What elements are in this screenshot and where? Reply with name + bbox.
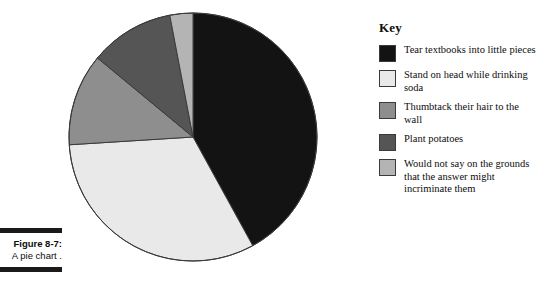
legend-swatch-icon <box>379 70 396 87</box>
legend-item: Would not say on the grounds that the an… <box>379 158 539 196</box>
legend: Key Tear textbooks into little piecesSta… <box>379 20 539 203</box>
legend-item: Stand on head while drinking soda <box>379 69 539 94</box>
figure-number-label: Figure 8-7: <box>0 238 62 250</box>
pie-chart-svg <box>66 10 326 270</box>
legend-item-list: Tear textbooks into little piecesStand o… <box>379 44 539 196</box>
legend-item-label: Thumbtack their hair to the wall <box>404 101 536 126</box>
legend-item-label: Would not say on the grounds that the an… <box>404 158 536 196</box>
figure-caption-text: A pie chart . <box>0 250 62 262</box>
legend-item-label: Plant potatoes <box>404 133 463 146</box>
legend-item: Thumbtack their hair to the wall <box>379 101 539 126</box>
legend-item-label: Tear textbooks into little pieces <box>404 44 536 57</box>
caption-rule-bottom <box>0 267 62 272</box>
legend-title: Key <box>379 20 539 35</box>
legend-item-label: Stand on head while drinking soda <box>404 69 536 94</box>
legend-item: Plant potatoes <box>379 133 539 151</box>
legend-swatch-icon <box>379 134 396 151</box>
figure-caption-block: Figure 8-7: A pie chart . <box>0 228 62 272</box>
caption-rule-top <box>0 228 62 233</box>
legend-swatch-icon <box>379 159 396 176</box>
legend-swatch-icon <box>379 45 396 62</box>
legend-swatch-icon <box>379 102 396 119</box>
legend-item: Tear textbooks into little pieces <box>379 44 539 62</box>
pie-chart <box>66 10 326 270</box>
pie-slice-group <box>69 13 317 261</box>
